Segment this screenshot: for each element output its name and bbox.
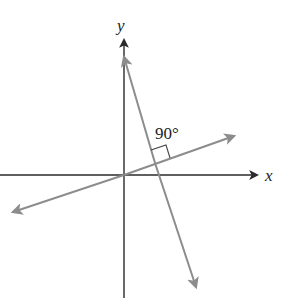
angle-label: 90° [155,124,179,143]
perpendicular-lines-figure: y x 90° [0,0,284,298]
y-axis-label: y [115,16,125,35]
diagram-canvas: y x 90° [0,0,284,298]
x-axis-label: x [264,166,273,185]
